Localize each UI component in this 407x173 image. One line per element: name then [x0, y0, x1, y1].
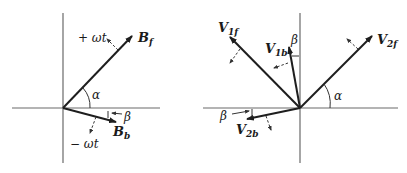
angle-alpha-arc [324, 84, 330, 108]
left-diagram: + ωt Bf α − ωt Bb β [12, 13, 160, 163]
label-beta-bottom: β [219, 109, 227, 123]
rotation-arrow-backward [90, 117, 96, 133]
rotation-arrow-forward [107, 39, 118, 50]
beta-pointer [112, 113, 122, 114]
rotation-arrow-v1b [274, 63, 288, 68]
label-v2b: V2b [236, 122, 259, 139]
label-v1f: V1f [218, 20, 240, 37]
label-bf: Bf [137, 30, 155, 47]
rotation-arrow-v2f [347, 39, 358, 49]
label-alpha: α [334, 89, 342, 103]
beta-bottom-pointer [232, 111, 249, 114]
label-plus-omega-t: + ωt [78, 31, 107, 45]
rotation-arrow-v1f [230, 49, 240, 63]
angle-alpha-arc [83, 88, 90, 108]
phasor-diagrams: + ωt Bf α − ωt Bb β V2f α V1f V1b β [0, 0, 407, 173]
label-beta-top: β [290, 33, 298, 47]
label-v1b: V1b [265, 41, 288, 58]
label-bb: Bb [112, 124, 130, 141]
label-alpha: α [92, 88, 100, 102]
label-v2f: V2f [377, 32, 399, 49]
right-diagram: V2f α V1f V1b β V2b β [203, 13, 399, 163]
label-minus-omega-t: − ωt [70, 137, 99, 151]
rotation-arrow-v2b [266, 116, 271, 130]
vector-v2b [247, 108, 300, 119]
label-beta: β [123, 110, 131, 124]
